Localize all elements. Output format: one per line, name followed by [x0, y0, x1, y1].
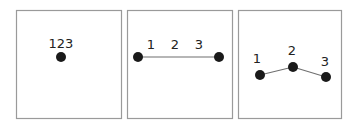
point-label: 3 — [195, 37, 203, 52]
point-label: 1 — [253, 51, 261, 66]
diagram-canvas: 123 1 2 3 1 2 3 — [0, 0, 359, 123]
panel-bent: 1 2 3 — [239, 11, 342, 119]
point-label: 123 — [49, 36, 74, 51]
panel-collapsed: 123 — [17, 11, 122, 119]
point-dot — [214, 52, 224, 62]
point-dot — [255, 70, 265, 80]
panel-frame — [128, 11, 233, 119]
point-label: 3 — [321, 54, 329, 69]
point-dot — [288, 62, 298, 72]
point-dot — [56, 52, 66, 62]
panel-linear: 1 2 3 — [128, 11, 233, 119]
panel-frame — [17, 11, 122, 119]
point-dot — [133, 52, 143, 62]
point-label: 2 — [288, 43, 296, 58]
point-dot — [321, 72, 331, 82]
point-label: 2 — [171, 37, 179, 52]
point-label: 1 — [147, 37, 155, 52]
